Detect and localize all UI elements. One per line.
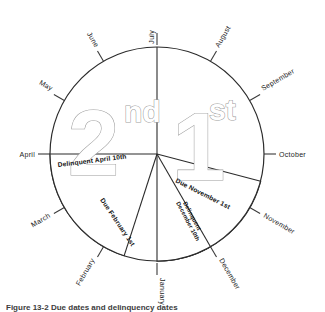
month-label-june: June (85, 31, 100, 49)
numeral-1-suffix: st (209, 93, 236, 126)
tick-march (54, 208, 64, 214)
month-label-november: November (262, 212, 296, 236)
tick-september (250, 95, 260, 101)
month-label-december: December (217, 257, 241, 291)
month-label-february: February (75, 257, 97, 287)
month-label-march: March (30, 212, 52, 229)
figure-caption: Figure 13-2 Due dates and delinquency da… (6, 302, 322, 312)
month-label-april: April (20, 151, 36, 159)
month-label-may: May (38, 79, 54, 93)
tick-june (98, 51, 104, 61)
tick-august (211, 51, 217, 61)
tax-calendar-wheel: 2 nd 1 st Delinquent April 10th Due Febr… (0, 0, 325, 312)
figure-container: 2 nd 1 st Delinquent April 10th Due Febr… (0, 0, 325, 312)
tick-november (250, 208, 260, 214)
numeral-2-suffix: nd (124, 95, 161, 128)
tick-december (211, 247, 217, 257)
month-label-july: July (148, 30, 156, 44)
month-label-october: October (279, 151, 306, 159)
numeral-2-glyph: 2 (68, 92, 119, 194)
tick-february (98, 247, 104, 257)
month-label-august: August (214, 25, 233, 49)
tick-may (54, 95, 64, 101)
month-label-september: September (260, 67, 296, 93)
